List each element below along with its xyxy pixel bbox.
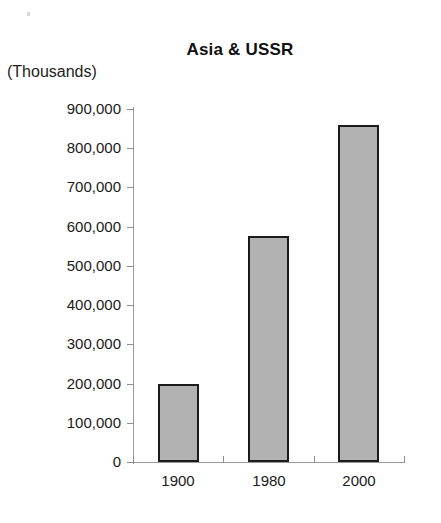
x-axis-tick [223,456,224,463]
y-axis-tick [127,227,134,228]
y-axis-tick-label: 400,000 [29,296,121,313]
y-axis-tick-label: 0 [29,453,121,470]
x-axis-line [133,462,405,463]
y-axis-tick-label: 800,000 [29,139,121,156]
y-axis-tick-label: 600,000 [29,218,121,235]
chart-title: Asia & USSR [120,40,360,60]
y-axis-tick [127,423,134,424]
y-axis-tick [127,148,134,149]
y-axis-tick-label: 300,000 [29,335,121,352]
y-axis-line [133,107,134,464]
y-axis-tick [127,109,134,110]
x-axis-tick [314,456,315,463]
x-axis-tick-label: 1980 [224,472,314,489]
x-axis-tick-label: 1900 [133,472,223,489]
x-axis-tick [133,456,134,463]
bar-1900 [158,384,199,462]
y-axis-tick [127,266,134,267]
y-axis-tick-label: 500,000 [29,257,121,274]
x-axis-tick-label: 2000 [314,472,404,489]
scan-artifact-speck [27,12,30,16]
bar-1980 [248,236,289,462]
y-axis-tick-label: 100,000 [29,414,121,431]
y-axis-tick [127,384,134,385]
y-axis-tick-label: 700,000 [29,178,121,195]
y-axis-tick [127,305,134,306]
x-axis-end-tick [404,456,405,463]
y-axis-tick-label: 200,000 [29,375,121,392]
y-axis-units-label: (Thousands) [7,63,97,81]
y-axis-tick [127,344,134,345]
bar-2000 [338,125,379,462]
y-axis-tick [127,187,134,188]
bar-chart-figure: Asia & USSR (Thousands) 900,000800,00070… [0,0,441,523]
y-axis-tick-label: 900,000 [29,100,121,117]
